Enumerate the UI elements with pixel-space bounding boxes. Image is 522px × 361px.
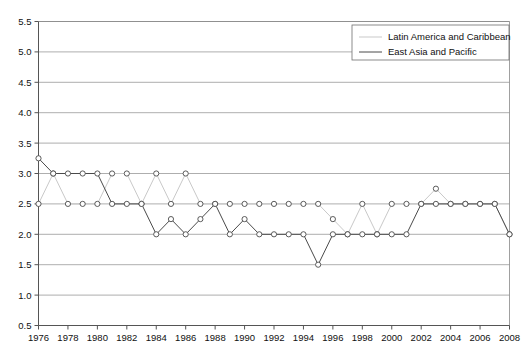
data-point-marker	[168, 217, 173, 222]
data-point-marker	[36, 156, 41, 161]
data-point-marker	[227, 232, 232, 237]
data-point-marker	[389, 232, 394, 237]
data-point-marker	[419, 201, 424, 206]
data-point-marker	[257, 232, 262, 237]
x-axis-tick-label: 1984	[146, 332, 167, 343]
line-chart: 5.55.04.54.03.53.02.52.01.51.00.5 197619…	[0, 0, 522, 361]
data-point-marker	[330, 217, 335, 222]
data-point-marker	[286, 232, 291, 237]
data-point-marker	[301, 232, 306, 237]
x-axis-tick-label: 1990	[234, 332, 255, 343]
data-point-marker	[345, 232, 350, 237]
data-point-marker	[242, 201, 247, 206]
x-axis-tick-label: 1996	[322, 332, 343, 343]
x-axis-tick-label: 1976	[28, 332, 49, 343]
data-point-marker	[301, 201, 306, 206]
data-point-marker	[271, 232, 276, 237]
x-axis-ticks: 1976197819801982198419861988199019921994…	[28, 326, 520, 343]
y-axis-tick-label: 5.0	[18, 46, 31, 57]
data-point-marker	[213, 201, 218, 206]
data-point-marker	[507, 232, 512, 237]
data-point-marker	[389, 201, 394, 206]
legend-label: Latin America and Caribbean	[388, 31, 511, 42]
data-point-marker	[227, 201, 232, 206]
y-axis-tick-label: 2.0	[18, 229, 31, 240]
data-point-marker	[242, 217, 247, 222]
data-point-marker	[286, 201, 291, 206]
x-axis-tick-label: 1988	[205, 332, 226, 343]
data-point-marker	[477, 201, 482, 206]
data-point-marker	[271, 201, 276, 206]
y-axis-tick-label: 5.5	[18, 16, 31, 27]
y-axis-tick-label: 1.0	[18, 290, 31, 301]
y-axis-tick-label: 0.5	[18, 320, 31, 331]
x-axis-tick-label: 1982	[116, 332, 137, 343]
x-axis-tick-label: 1980	[87, 332, 108, 343]
legend-label: East Asia and Pacific	[388, 46, 477, 57]
data-point-marker	[433, 186, 438, 191]
data-point-marker	[109, 171, 114, 176]
x-axis-tick-label: 2004	[440, 332, 461, 343]
x-axis-tick-label: 2006	[469, 332, 490, 343]
data-point-marker	[433, 201, 438, 206]
chart-container: 5.55.04.54.03.53.02.52.01.51.00.5 197619…	[0, 0, 522, 361]
data-point-marker	[51, 171, 56, 176]
data-point-marker	[95, 201, 100, 206]
x-axis-tick-label: 2000	[381, 332, 402, 343]
data-point-marker	[360, 232, 365, 237]
data-point-marker	[183, 232, 188, 237]
data-point-marker	[316, 262, 321, 267]
data-point-marker	[65, 201, 70, 206]
data-point-marker	[168, 201, 173, 206]
data-point-marker	[124, 201, 129, 206]
y-axis-ticks: 5.55.04.54.03.53.02.52.01.51.00.5	[18, 16, 38, 331]
data-point-marker	[109, 201, 114, 206]
y-axis-tick-label: 2.5	[18, 198, 31, 209]
x-axis-tick-label: 1978	[57, 332, 78, 343]
x-axis-tick-label: 1994	[293, 332, 314, 343]
y-axis-tick-label: 1.5	[18, 259, 31, 270]
data-point-marker	[36, 201, 41, 206]
x-axis-tick-label: 1992	[263, 332, 284, 343]
x-axis-tick-label: 2002	[411, 332, 432, 343]
data-point-marker	[95, 171, 100, 176]
y-axis-tick-label: 3.0	[18, 168, 31, 179]
data-point-marker	[80, 171, 85, 176]
data-point-marker	[80, 201, 85, 206]
data-point-marker	[330, 232, 335, 237]
data-point-marker	[404, 232, 409, 237]
data-point-marker	[198, 201, 203, 206]
data-point-marker	[374, 232, 379, 237]
data-point-marker	[183, 171, 188, 176]
data-point-marker	[124, 171, 129, 176]
data-point-marker	[257, 201, 262, 206]
data-point-marker	[154, 232, 159, 237]
x-axis-tick-label: 1998	[352, 332, 373, 343]
y-axis-tick-label: 4.0	[18, 107, 31, 118]
data-point-marker	[360, 201, 365, 206]
x-axis-tick-label: 2008	[499, 332, 520, 343]
data-point-marker	[198, 217, 203, 222]
data-point-marker	[448, 201, 453, 206]
data-point-marker	[139, 201, 144, 206]
data-point-marker	[65, 171, 70, 176]
data-point-marker	[404, 201, 409, 206]
data-point-marker	[154, 171, 159, 176]
data-point-marker	[463, 201, 468, 206]
chart-legend: Latin America and CaribbeanEast Asia and…	[352, 25, 511, 60]
data-point-marker	[316, 201, 321, 206]
x-axis-tick-label: 1986	[175, 332, 196, 343]
y-axis-tick-label: 3.5	[18, 138, 31, 149]
y-axis-tick-label: 4.5	[18, 77, 31, 88]
data-point-marker	[492, 201, 497, 206]
data-point-markers	[36, 156, 512, 268]
